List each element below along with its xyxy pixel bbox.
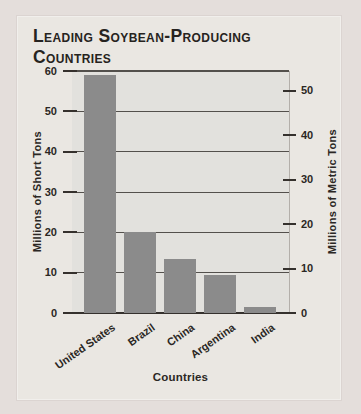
right-tick-dash (283, 312, 296, 314)
page-background: { "figure": { "title_line1": "Leading So… (0, 0, 361, 414)
x-axis-title: Countries (72, 371, 289, 383)
bar-brazil (124, 232, 156, 313)
gridline (72, 70, 289, 72)
left-tick-dash (63, 110, 77, 112)
right-axis-title: Millions of Metric Tons (319, 71, 345, 313)
right-axis-title-text: Millions of Metric Tons (326, 129, 338, 254)
x-label-india: India (150, 317, 270, 335)
left-tick-dash (63, 272, 77, 274)
right-tick-dash (283, 179, 296, 181)
bar-argentina (204, 275, 236, 313)
right-tick-dash (283, 134, 296, 136)
right-tick-dash (283, 268, 296, 270)
left-tick-dash (63, 70, 77, 72)
x-label-text-india: India (249, 321, 277, 346)
right-tick-dash (283, 223, 296, 225)
left-axis-title: Millions of Short Tons (25, 71, 49, 313)
left-tick-dash (63, 151, 77, 153)
left-axis-title-text: Millions of Short Tons (31, 131, 43, 252)
left-tick-dash (63, 191, 77, 193)
left-tick-dash (63, 231, 77, 233)
bar-chart: 010203040506001020304050United StatesBra… (17, 16, 341, 400)
right-tick-dash (283, 90, 296, 92)
figure-card: Leading Soybean-Producing Countries 0102… (17, 16, 341, 400)
bar-united-states (84, 75, 116, 313)
bar-china (164, 259, 196, 313)
bar-india (244, 307, 276, 313)
